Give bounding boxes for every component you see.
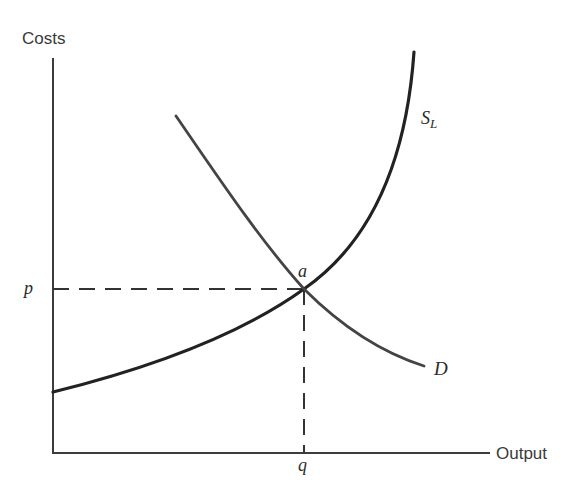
supply-label: SL [421, 108, 437, 131]
demand-curve [176, 116, 424, 366]
price-label: p [22, 278, 33, 298]
equilibrium-label: a [298, 261, 307, 281]
y-axis-label: Costs [22, 29, 65, 48]
x-axis-label: Output [496, 444, 547, 463]
demand-label: D [433, 358, 448, 379]
quantity-label: q [298, 455, 307, 475]
supply-curve [53, 52, 414, 392]
supply-demand-diagram: Costs Output p q a SL D [0, 0, 571, 494]
